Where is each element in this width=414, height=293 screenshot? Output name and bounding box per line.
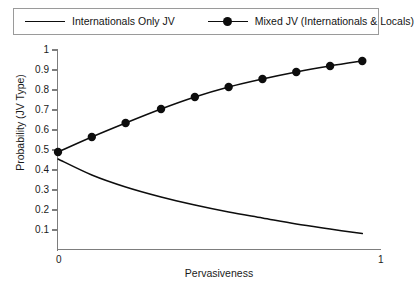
data-point-marker (258, 75, 266, 83)
series-internationals-only-line (58, 159, 362, 234)
y-axis-tick-label: 1 (43, 45, 49, 55)
series-mixed-jv-markers (54, 57, 367, 156)
chart-series-layer (58, 50, 380, 250)
data-point-marker (157, 105, 165, 113)
data-point-marker (191, 93, 199, 101)
legend-label-mixed-jv: Mixed JV (Internationals & Locals) (255, 16, 414, 27)
x-axis-tick-label: 1 (378, 255, 384, 265)
data-point-marker (121, 119, 129, 127)
legend-entry-mixed-jv: Mixed JV (Internationals & Locals) (208, 9, 414, 34)
y-axis-tick-label: 0.8 (35, 85, 49, 95)
y-axis-tick-label: 0.6 (35, 125, 49, 135)
x-axis-label: Pervasiveness (58, 268, 380, 279)
y-axis-tick-label: 0.7 (35, 105, 49, 115)
data-point-marker (326, 62, 334, 70)
legend-entry-internationals-only: Internationals Only JV (25, 9, 175, 34)
y-axis-tick-label: 0.4 (35, 165, 49, 175)
legend-label-internationals-only: Internationals Only JV (72, 16, 175, 27)
data-point-marker (292, 68, 300, 76)
y-axis-tick-label: 0.9 (35, 65, 49, 75)
plot-area (58, 50, 380, 250)
data-point-marker (358, 57, 366, 65)
legend-line-swatch-icon (25, 16, 65, 28)
data-point-marker (54, 148, 62, 156)
y-axis-tick-label: 0.2 (35, 205, 49, 215)
x-axis-tick-label: 0 (56, 255, 62, 265)
y-axis-tick-label: 0.1 (35, 225, 49, 235)
data-point-marker (224, 83, 232, 91)
legend-line-marker-swatch-icon (208, 16, 248, 28)
chart-legend: Internationals Only JV Mixed JV (Interna… (13, 8, 379, 35)
top-cropped-artifact (0, 0, 392, 6)
y-axis-tick-label: 0.5 (35, 145, 49, 155)
y-axis-label: Probability (JV Type) (15, 63, 26, 183)
data-point-marker (88, 133, 96, 141)
y-axis-tick-label: 0.3 (35, 185, 49, 195)
series-mixed-jv-line (58, 61, 362, 152)
